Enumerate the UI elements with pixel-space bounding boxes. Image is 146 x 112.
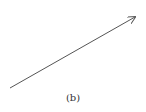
figure-caption: (b) <box>0 92 146 103</box>
vector-arrow-icon <box>10 17 135 88</box>
